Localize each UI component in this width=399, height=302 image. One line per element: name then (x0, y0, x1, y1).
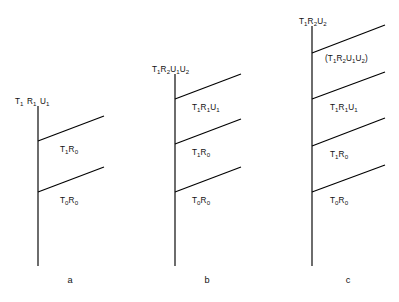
panel-a-branch-T0R0-label: T0R0 (60, 196, 79, 206)
panel-b-branch-T1R1U1 (175, 74, 241, 99)
panel-b: T1R2U1U2T1R1U1T1R0T0R0b (152, 65, 241, 285)
panel-c-branch-T1R2U1U2-parenthesized-label: (T1R2U1U2) (325, 54, 368, 64)
panel-a-branch-T0R0 (38, 167, 104, 192)
panel-c-branch-T1R1U1 (312, 72, 385, 99)
figure-container: T1 R1 U1T1R0T0R0aT1R2U1U2T1R1U1T1R0T0R0b… (0, 0, 399, 302)
diagram-canvas: T1 R1 U1T1R0T0R0aT1R2U1U2T1R1U1T1R0T0R0b… (0, 0, 399, 302)
panel-b-branch-T1R0 (175, 119, 241, 144)
panel-c: T1R2U2(T1R2U1U2)T1R1U1T1R0T0R0c (299, 17, 385, 285)
panel-c-branch-T0R0-label: T0R0 (330, 196, 349, 206)
panel-b-branch-T1R1U1-label: T1R1U1 (192, 103, 220, 113)
panel-c-branch-T1R2U1U2-parenthesized (312, 25, 385, 53)
panel-c-branch-T1R0-label: T1R0 (330, 150, 349, 160)
panel-b-top-state-label: T1R2U1U2 (152, 65, 190, 75)
panel-a-branch-T1R0 (38, 116, 104, 141)
panel-letter-b: b (204, 275, 209, 285)
panel-c-branch-T0R0 (312, 165, 385, 192)
panel-c-top-state-label: T1R2U2 (299, 17, 327, 27)
panel-b-branch-T0R0 (175, 167, 241, 192)
panel-a: T1 R1 U1T1R0T0R0a (15, 97, 104, 285)
panel-c-branch-T1R1U1-label: T1R1U1 (330, 103, 358, 113)
panel-a-top-state-label: T1 R1 U1 (15, 97, 50, 107)
panel-letter-a: a (67, 275, 73, 285)
panel-letter-c: c (346, 275, 351, 285)
panel-b-branch-T0R0-label: T0R0 (192, 196, 211, 206)
panel-b-branch-T1R0-label: T1R0 (192, 148, 211, 158)
panel-a-branch-T1R0-label: T1R0 (60, 145, 79, 155)
panel-c-branch-T1R0 (312, 118, 385, 146)
